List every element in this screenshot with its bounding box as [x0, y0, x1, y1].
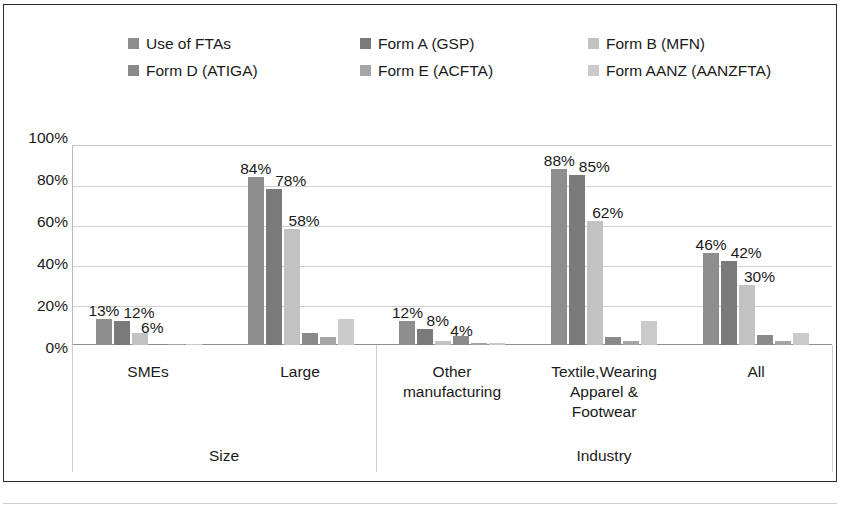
bar-textile-form-d-atiga[interactable]: [605, 337, 621, 345]
bar-smes-form-b-mfn[interactable]: 6%: [132, 333, 148, 345]
legend-label: Form E (ACFTA): [378, 63, 493, 79]
x-axis-category-textile-wearing-apparel-footwear: Textile,Wearing Apparel & Footwear: [528, 348, 680, 436]
bar-data-label: 4%: [450, 323, 472, 339]
bar-group-all: 46% 42% 30%: [680, 146, 832, 345]
bar-textile-form-a-gsp[interactable]: 85%: [569, 175, 585, 345]
bar-large-form-d-atiga[interactable]: [302, 333, 318, 345]
bar-data-label: 58%: [289, 213, 320, 229]
x-axis-category-all: All: [680, 348, 832, 436]
legend-label: Form AANZ (AANZFTA): [606, 63, 771, 79]
bar-large-form-e-acfta[interactable]: [320, 337, 336, 345]
plot-area: 13% 12% 6% 84% 78%: [72, 145, 832, 345]
bar-smes-form-d-atiga[interactable]: [150, 344, 166, 345]
bar-smes-form-e-acfta[interactable]: [168, 344, 184, 345]
x-axis-category-smes: SMEs: [72, 348, 224, 436]
y-axis-tick: 60%: [37, 214, 68, 230]
bar-textile-form-aanz-aanzfta[interactable]: [641, 321, 657, 345]
legend-item-form-b-mfn[interactable]: Form B (MFN): [588, 36, 771, 52]
bar-data-label: 78%: [275, 173, 306, 189]
bar-all-form-b-mfn[interactable]: 30%: [739, 285, 755, 345]
bar-data-label: 84%: [240, 161, 271, 177]
legend-swatch-icon: [360, 38, 371, 49]
category-line: Apparel &: [528, 382, 680, 402]
y-axis-tick-labels: 100% 80% 60% 40% 20% 0%: [14, 138, 68, 350]
y-axis-tick: 100%: [28, 130, 68, 146]
bar-textile-form-e-acfta[interactable]: [623, 341, 639, 345]
bar-large-use-of-ftas[interactable]: 84%: [248, 177, 264, 345]
bar-group-other-manufacturing: 12% 8% 4%: [377, 146, 529, 345]
bar-group-textile-wearing-apparel-footwear: 88% 85% 62%: [528, 146, 680, 345]
bar-data-label: 13%: [88, 303, 119, 319]
bar-smes-form-aanz-aanzfta[interactable]: [186, 344, 202, 345]
bar-other-manufacturing-form-aanz-aanzfta[interactable]: [489, 343, 505, 345]
bar-data-label: 42%: [731, 245, 762, 261]
outer-group-size: Size: [72, 440, 376, 472]
legend-item-form-e-acfta[interactable]: Form E (ACFTA): [360, 63, 588, 79]
legend-swatch-icon: [588, 38, 599, 49]
legend-label: Form A (GSP): [378, 36, 474, 52]
bar-data-label: 30%: [744, 269, 775, 285]
bar-data-label: 46%: [696, 237, 727, 253]
legend-item-form-d-atiga[interactable]: Form D (ATIGA): [128, 63, 360, 79]
legend-label: Form B (MFN): [606, 36, 705, 52]
bar-all-form-aanz-aanzfta[interactable]: [793, 333, 809, 345]
bar-group-large: 84% 78% 58%: [225, 146, 377, 345]
y-axis-tick: 0%: [46, 340, 68, 356]
category-separator: [832, 345, 833, 472]
bar-large-form-aanz-aanzfta[interactable]: [338, 319, 354, 345]
y-axis-tick: 40%: [37, 256, 68, 272]
bar-data-label: 88%: [544, 153, 575, 169]
bar-textile-form-b-mfn[interactable]: 62%: [587, 221, 603, 345]
bar-all-use-of-ftas[interactable]: 46%: [703, 253, 719, 345]
legend-label: Form D (ATIGA): [146, 63, 258, 79]
chart-figure: Use of FTAs Form A (GSP) Form B (MFN) Fo…: [0, 0, 841, 508]
category-line: SMEs: [72, 362, 224, 382]
category-line: manufacturing: [376, 382, 528, 402]
category-line: Large: [224, 362, 376, 382]
bar-data-label: 6%: [141, 320, 163, 336]
legend-item-form-a-gsp[interactable]: Form A (GSP): [360, 36, 588, 52]
outer-group-industry: Industry: [376, 440, 832, 472]
bar-other-manufacturing-form-d-atiga[interactable]: 4%: [453, 336, 469, 345]
y-axis-tick: 20%: [37, 298, 68, 314]
x-axis-category-large: Large: [224, 348, 376, 436]
bar-large-form-a-gsp[interactable]: 78%: [266, 189, 282, 345]
legend-label: Use of FTAs: [146, 36, 231, 52]
bar-all-form-a-gsp[interactable]: 42%: [721, 261, 737, 345]
legend-item-use-of-ftas[interactable]: Use of FTAs: [128, 36, 360, 52]
bar-other-manufacturing-form-b-mfn[interactable]: [435, 341, 451, 345]
category-line: All: [680, 362, 832, 382]
bar-group-smes: 13% 12% 6%: [73, 146, 225, 345]
legend-swatch-icon: [360, 65, 371, 76]
x-axis-category-labels: SMEs Large Other manufacturing Textile,W…: [72, 348, 832, 436]
legend-swatch-icon: [588, 65, 599, 76]
category-line: Textile,Wearing: [528, 362, 680, 382]
category-line: Footwear: [528, 402, 680, 422]
bar-other-manufacturing-form-e-acfta[interactable]: [471, 343, 487, 345]
bar-smes-use-of-ftas[interactable]: 13%: [96, 319, 112, 345]
legend-swatch-icon: [128, 65, 139, 76]
bar-other-manufacturing-use-of-ftas[interactable]: 12%: [399, 321, 415, 345]
bar-data-label: 12%: [392, 305, 423, 321]
bar-large-form-b-mfn[interactable]: 58%: [284, 229, 300, 345]
bar-groups: 13% 12% 6% 84% 78%: [73, 146, 832, 345]
x-axis-category-other-manufacturing: Other manufacturing: [376, 348, 528, 436]
figure-bottom-rule: [3, 503, 837, 504]
bar-data-label: 85%: [579, 159, 610, 175]
bar-other-manufacturing-form-a-gsp[interactable]: 8%: [417, 329, 433, 345]
bar-data-label: 8%: [427, 313, 449, 329]
bar-data-label: 62%: [592, 205, 623, 221]
legend-swatch-icon: [128, 38, 139, 49]
category-line: Other: [376, 362, 528, 382]
bar-smes-form-a-gsp[interactable]: 12%: [114, 321, 130, 345]
bar-textile-use-of-ftas[interactable]: 88%: [551, 169, 567, 345]
bar-all-form-d-atiga[interactable]: [757, 335, 773, 345]
y-axis-tick: 80%: [37, 172, 68, 188]
x-axis-outer-group-labels: Size Industry: [72, 440, 832, 472]
chart-legend: Use of FTAs Form A (GSP) Form B (MFN) Fo…: [128, 30, 728, 84]
legend-item-form-aanz-aanzfta[interactable]: Form AANZ (AANZFTA): [588, 63, 771, 79]
bar-all-form-e-acfta[interactable]: [775, 341, 791, 345]
